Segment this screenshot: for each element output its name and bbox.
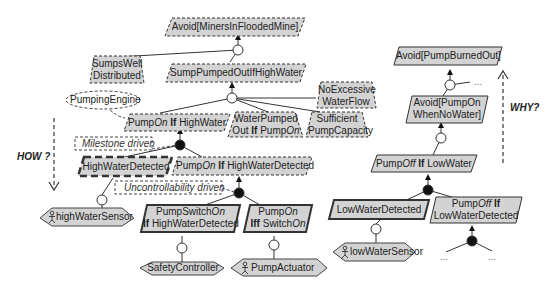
goal-pump-off-if-low-water: PumpOff If LowWater: [374, 158, 474, 170]
text-part: Pump: [128, 117, 154, 128]
text-part: HighWaterDetected: [149, 218, 239, 229]
domain-property-pumping-engine: PumpingEngine: [70, 94, 136, 106]
goal-pump-on-iff-switch-on: PumpOn Iff SwitchOn: [246, 206, 310, 230]
goal-pump-off-if-lwd: PumpOff If LowWaterDetected: [432, 198, 520, 222]
text-part: On: [212, 206, 225, 217]
text-part: Pump: [257, 125, 286, 136]
text-part: Switch: [260, 218, 292, 229]
goal-label-line: WaterPumped: [232, 113, 300, 125]
goal-high-water-detected: HighWaterDetected: [82, 161, 170, 173]
text-part: On: [154, 117, 167, 128]
ellipsis: ...: [474, 76, 482, 87]
goal-sufficient-pump-capacity: Sufficient PumpCapacity: [308, 113, 366, 137]
goal-sumps-well-distributed: SumpsWell Distributed: [92, 58, 142, 82]
text-part: Out: [232, 125, 251, 136]
why-label: WHY?: [510, 102, 539, 113]
goal-label-line: PumpOn: [246, 206, 310, 218]
text-part: If: [167, 117, 179, 128]
goal-label-line: PumpOff If: [432, 198, 520, 210]
agent-pump-actuator: PumpActuator: [251, 262, 321, 274]
text-part: LowWater: [427, 158, 472, 169]
text-part: If: [215, 160, 227, 171]
goal-sump-pumped-out-if-high-water: SumpPumpedOutIfHighWater: [170, 67, 302, 79]
text-part: Iff: [250, 218, 259, 229]
goal-avoid-miners-in-flooded-mine: Avoid[MinersInFloodedMine]: [170, 21, 300, 33]
goal-label-line: Avoid[PumpOn: [408, 97, 486, 109]
goal-label-line: PumpCapacity: [308, 125, 366, 137]
goal-label-line: Sufficient: [308, 113, 366, 125]
text-part: Pump: [258, 206, 284, 217]
text-part: On: [286, 125, 299, 136]
goal-no-excessive-water-flow: NoExcessive WaterFlow: [318, 84, 374, 108]
agent-low-water-sensor: lowWaterSensor: [350, 246, 412, 258]
goal-pump-switch-on-if-hwd: PumpSwitchOn If HighWaterDetected: [143, 206, 238, 230]
goal-label-line: If HighWaterDetected: [143, 218, 238, 230]
ellipsis: ...: [488, 251, 496, 262]
ellipsis: ...: [440, 251, 448, 262]
agent-high-water-sensor: highWaterSensor: [56, 211, 132, 223]
uncontrollability-annotation: Uncontrollability driven: [124, 182, 225, 193]
goal-label-line: WaterFlow: [318, 96, 374, 108]
text-part: On: [292, 218, 305, 229]
text-part: If: [491, 198, 500, 209]
text-part: If: [416, 158, 428, 169]
text-part: Off: [402, 158, 415, 169]
agent-safety-controller: SafetyController: [146, 262, 220, 274]
text-part: On: [202, 160, 215, 171]
text-part: Pump: [452, 198, 478, 209]
goal-label-line: NoExcessive: [318, 84, 374, 96]
how-label: HOW ?: [17, 151, 50, 162]
goal-avoid-pump-on-when-no-water: Avoid[PumpOn WhenNoWater]: [408, 97, 486, 121]
goal-pump-on-if-high-water-detected: PumpOn If HighWaterDetected: [176, 160, 308, 172]
text-part: HighWater: [179, 117, 226, 128]
text-part: Pump: [176, 160, 202, 171]
text-part: HighWaterDetected: [227, 160, 314, 171]
goal-low-water-detected: LowWaterDetected: [331, 204, 427, 216]
goal-label-line: LowWaterDetected: [432, 210, 520, 222]
goal-avoid-pump-burned-out: Avoid[PumpBurnedOut]: [396, 50, 500, 62]
goal-label-line: WhenNoWater]: [408, 109, 486, 121]
goal-water-pumped-out-if-pump-on: WaterPumped Out If PumpOn: [232, 113, 300, 137]
goal-pump-on-if-high-water: PumpOn If HighWater: [128, 117, 226, 129]
goal-label-line: Out If PumpOn: [232, 125, 300, 137]
text-part: PumpSwitch: [156, 206, 212, 217]
text-part: Off: [478, 198, 491, 209]
goal-label-line: SumpsWell: [92, 58, 142, 70]
goal-label-line: Iff SwitchOn: [246, 218, 310, 230]
text-part: On: [284, 206, 297, 217]
goal-label-line: Distributed: [92, 70, 142, 82]
goal-label-line: PumpSwitchOn: [143, 206, 238, 218]
milestone-annotation: Milestone driven: [82, 138, 155, 149]
text-part: Pump: [376, 158, 402, 169]
